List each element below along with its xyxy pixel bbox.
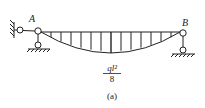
moment-denominator: 8	[110, 74, 115, 84]
support-a-pin	[35, 42, 41, 48]
figure-caption: (a)	[107, 91, 117, 101]
node-b-pin	[180, 30, 186, 36]
ground-b	[171, 54, 195, 57]
moment-ordinates	[51, 32, 171, 53]
left-link-pin	[17, 27, 23, 33]
node-a-pin	[35, 28, 41, 34]
ground-a	[27, 49, 50, 52]
bending-moment-diagram: A B ql² 8 (a)	[0, 0, 205, 108]
support-b-pin	[180, 47, 186, 53]
moment-numerator: ql²	[107, 63, 117, 73]
left-wall-support	[10, 20, 17, 38]
horizontal-link	[23, 31, 35, 32]
node-a-label: A	[28, 13, 36, 24]
node-b-label: B	[182, 17, 188, 28]
